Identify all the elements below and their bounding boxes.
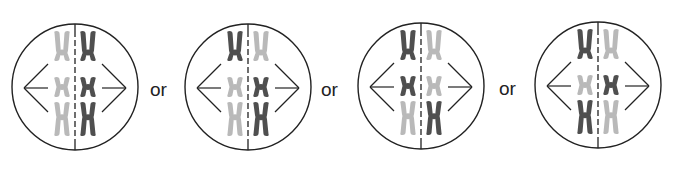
chromosome-right-1 (80, 31, 95, 61)
chromosome-right-1 (603, 29, 618, 59)
chromosome-left-2 (400, 76, 415, 96)
chromosome-right-2 (80, 77, 95, 97)
chromosome-right-1 (253, 31, 268, 61)
chromosome-right-2 (253, 77, 268, 97)
spindle-arrow-right (102, 64, 126, 112)
chromosome-left-3 (577, 100, 592, 134)
cell-4 (535, 22, 661, 148)
chromosome-left-1 (577, 29, 592, 59)
chromosome-left-2 (577, 75, 592, 95)
chromosome-right-3 (603, 100, 618, 134)
chromosome-right-2 (603, 75, 618, 95)
or-label-1: or (150, 80, 167, 99)
spindle-arrow-left (24, 64, 48, 112)
chromosome-right-3 (426, 101, 441, 135)
chromosome-left-2 (227, 77, 242, 97)
spindle-arrow-right (625, 62, 649, 110)
or-label-3: or (499, 79, 516, 98)
cell-3 (358, 23, 484, 149)
chromosome-left-3 (54, 102, 69, 136)
diagram-canvas (0, 0, 680, 170)
chromosome-left-3 (400, 101, 415, 135)
spindle-arrow-left (370, 63, 394, 111)
cell-2 (185, 24, 311, 150)
spindle-arrow-right (275, 64, 299, 112)
chromosome-right-1 (426, 30, 441, 60)
chromosome-left-1 (227, 31, 242, 61)
chromosome-left-3 (227, 102, 242, 136)
spindle-arrow-left (197, 64, 221, 112)
chromosome-right-3 (80, 102, 95, 136)
chromosome-left-1 (54, 31, 69, 61)
spindle-arrow-right (448, 63, 472, 111)
chromosome-right-3 (253, 102, 268, 136)
chromosome-left-2 (54, 77, 69, 97)
chromosome-right-2 (426, 76, 441, 96)
meiosis-alignment-diagram: or or or (0, 0, 680, 170)
cell-1 (12, 24, 138, 150)
spindle-arrow-left (547, 62, 571, 110)
or-label-2: or (321, 80, 338, 99)
chromosome-left-1 (400, 30, 415, 60)
